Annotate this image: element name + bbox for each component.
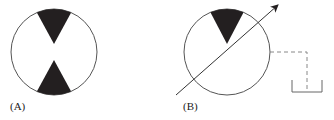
label-a: (A): [10, 100, 25, 112]
top-triangle-icon: [204, 0, 250, 44]
panel-a-symbol: [11, 0, 97, 104]
hydraulic-symbols-diagram: [0, 0, 334, 120]
bottom-triangle-icon: [30, 60, 78, 104]
label-b: (B): [183, 100, 198, 112]
top-triangle-icon: [30, 0, 78, 44]
panel-b-symbol: [176, 0, 322, 95]
drain-line: [270, 52, 307, 92]
